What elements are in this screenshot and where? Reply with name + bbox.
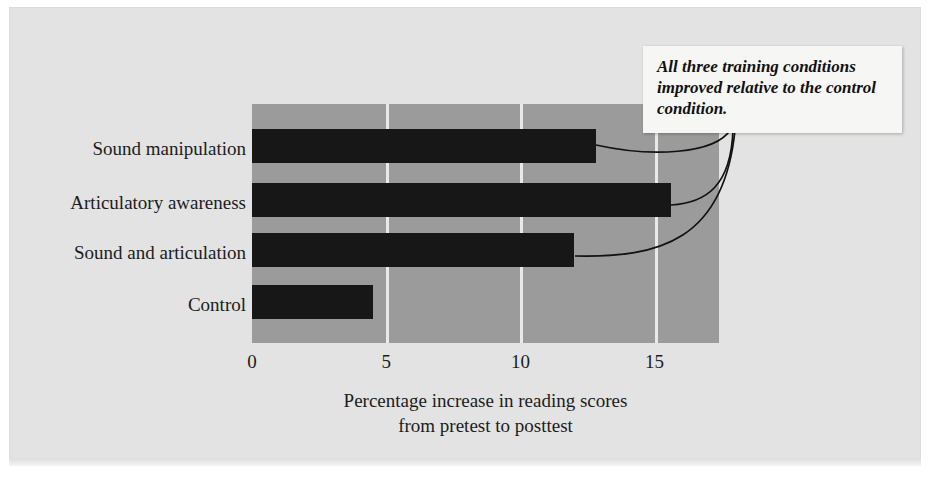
x-axis-ticks: 0 5 10 15	[252, 352, 719, 376]
x-tick-10: 10	[511, 352, 530, 371]
bar-articulatory-awareness[interactable]	[252, 183, 671, 217]
annotation-callout-text: All three training conditions improved r…	[657, 56, 894, 119]
category-label-control: Control	[6, 295, 246, 314]
category-axis: Sound manipulation Articulatory awarenes…	[6, 104, 246, 343]
category-label-sound-manipulation: Sound manipulation	[6, 139, 246, 158]
x-axis-title-line-2: from pretest to posttest	[252, 413, 719, 438]
bar-sound-manipulation[interactable]	[252, 129, 596, 163]
x-axis-title: Percentage increase in reading scores fr…	[252, 388, 719, 438]
x-tick-15: 15	[645, 352, 664, 371]
x-tick-0: 0	[247, 352, 257, 371]
bar-sound-and-articulation[interactable]	[252, 233, 574, 267]
category-label-sound-and-articulation: Sound and articulation	[6, 243, 246, 262]
gridline-15	[655, 104, 658, 343]
x-tick-5: 5	[381, 352, 391, 371]
category-label-articulatory-awareness: Articulatory awareness	[6, 193, 246, 212]
plot-area	[252, 104, 719, 343]
chart-figure: Sound manipulation Articulatory awarenes…	[0, 0, 941, 484]
bar-control[interactable]	[252, 285, 373, 319]
annotation-callout: All three training conditions improved r…	[643, 46, 902, 133]
x-axis-title-line-1: Percentage increase in reading scores	[252, 388, 719, 413]
